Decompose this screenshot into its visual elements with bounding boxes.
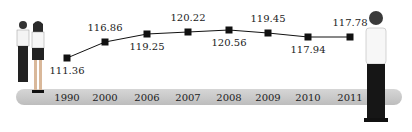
data-label: 120.56 — [212, 37, 247, 48]
year-tick-label: 2011 — [337, 92, 362, 103]
data-label: 111.36 — [50, 65, 85, 76]
data-point-marker — [347, 34, 354, 41]
data-label: 117.94 — [291, 44, 326, 55]
data-point-marker — [305, 34, 312, 41]
data-point-marker — [185, 29, 192, 36]
year-tick-label: 2007 — [175, 92, 200, 103]
data-label: 119.25 — [130, 41, 165, 52]
year-tick-label: 1990 — [54, 92, 79, 103]
data-point-marker — [64, 55, 71, 62]
data-label: 116.86 — [88, 22, 123, 33]
data-point-marker — [102, 39, 109, 46]
year-tick-label: 2008 — [216, 92, 241, 103]
data-label: 120.22 — [171, 12, 206, 23]
data-point-marker — [144, 31, 151, 38]
data-point-marker — [226, 27, 233, 34]
chart-root: 111.36116.86119.25120.22120.56119.45117.… — [0, 0, 412, 132]
year-tick-label: 2010 — [295, 92, 320, 103]
year-tick-label: 2000 — [92, 92, 117, 103]
data-label: 119.45 — [251, 13, 286, 24]
data-label: 117.78 — [333, 17, 368, 28]
year-tick-label: 2009 — [255, 92, 280, 103]
year-tick-label: 2006 — [134, 92, 159, 103]
data-point-marker — [265, 30, 272, 37]
